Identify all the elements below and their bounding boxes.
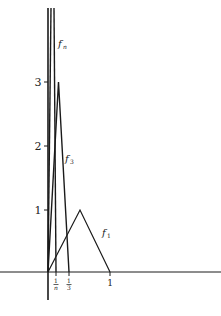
y-tick-1: 1	[35, 204, 42, 217]
x-tick-1-over-n: 1 n	[54, 277, 59, 291]
x-ticks	[56, 272, 110, 276]
x-tick-1: 1	[107, 278, 113, 288]
fn-curve-descent	[54, 8, 56, 272]
svg-text:n: n	[54, 284, 58, 291]
label-f3: f 3	[64, 153, 74, 165]
svg-text:1: 1	[107, 232, 111, 239]
f3-curve	[48, 82, 69, 272]
x-tick-1-over-3: 1 3	[67, 277, 72, 291]
f1-curve	[48, 210, 110, 272]
svg-text:1: 1	[67, 277, 71, 284]
label-fn: f n	[57, 38, 67, 50]
label-f1: f 1	[101, 227, 111, 239]
y-tick-3: 3	[35, 76, 42, 89]
svg-text:1: 1	[54, 277, 58, 284]
svg-text:3: 3	[70, 158, 74, 165]
svg-text:3: 3	[67, 284, 71, 291]
svg-text:n: n	[63, 43, 67, 50]
y-tick-2: 2	[35, 140, 42, 153]
triangle-functions-figure: 1 2 3 1 n 1 3 1 f n f 3 f 1	[0, 0, 221, 316]
